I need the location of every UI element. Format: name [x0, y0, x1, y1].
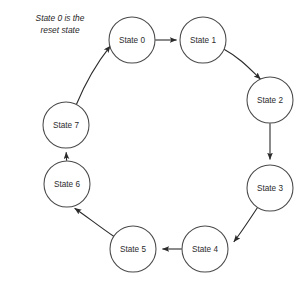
node-state-5[interactable]: State 5 — [110, 226, 156, 272]
state-diagram-canvas: State 0 State 1 State 2 State 3 State 4 — [0, 0, 304, 286]
reset-state-caption: State 0 is the reset state — [8, 13, 112, 36]
node-state-0[interactable]: State 0 — [109, 17, 155, 63]
node-label-state-7: State 7 — [53, 121, 79, 130]
edge-state1-to-state2 — [223, 49, 261, 80]
node-label-state-5: State 5 — [120, 245, 146, 254]
node-state-1[interactable]: State 1 — [180, 17, 226, 63]
node-label-state-0: State 0 — [119, 36, 145, 45]
node-label-state-6: State 6 — [54, 180, 80, 189]
node-label-state-3: State 3 — [257, 184, 283, 193]
node-state-6[interactable]: State 6 — [44, 161, 90, 207]
edge-state7-to-state0 — [77, 46, 111, 104]
edge-state3-to-state4 — [234, 208, 258, 242]
node-state-7[interactable]: State 7 — [43, 102, 89, 148]
node-label-state-4: State 4 — [192, 245, 218, 254]
edge-state5-to-state6 — [75, 208, 115, 237]
node-label-state-1: State 1 — [190, 36, 216, 45]
node-state-3[interactable]: State 3 — [247, 165, 293, 211]
node-layer: State 0 State 1 State 2 State 3 State 4 — [43, 17, 293, 272]
node-state-4[interactable]: State 4 — [182, 226, 228, 272]
node-label-state-2: State 2 — [257, 96, 283, 105]
edge-layer — [66, 40, 270, 249]
node-state-2[interactable]: State 2 — [247, 77, 293, 123]
state-diagram-svg: State 0 State 1 State 2 State 3 State 4 — [0, 0, 304, 286]
